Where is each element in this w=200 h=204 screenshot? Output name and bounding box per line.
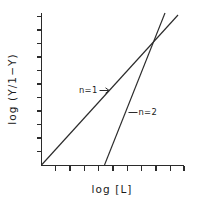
series-line-n2 bbox=[105, 13, 166, 165]
annotation-n2-label: n=2 bbox=[139, 107, 158, 117]
annotation-n2: n=2 bbox=[129, 107, 158, 117]
plot-canvas: n=1 n=2 log [L] log (Y/1−Y) bbox=[0, 0, 200, 204]
series-line-n1 bbox=[42, 15, 179, 165]
y-axis-title: log (Y/1−Y) bbox=[6, 53, 18, 124]
data-series-group bbox=[42, 13, 179, 165]
x-axis-title: log [L] bbox=[91, 183, 132, 195]
hill-plot-figure: n=1 n=2 log [L] log (Y/1−Y) bbox=[0, 0, 200, 204]
annotation-n1-label: n=1 bbox=[79, 85, 98, 95]
annotation-n1: n=1 bbox=[79, 85, 109, 95]
